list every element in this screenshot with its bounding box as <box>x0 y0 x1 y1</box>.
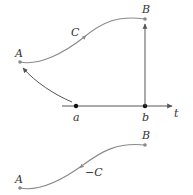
point-A-bottom-label: A <box>14 173 23 186</box>
point-B-label: B <box>141 3 150 16</box>
parametric-curve-diagram: t a b C A B −C A B <box>0 0 193 195</box>
point-A <box>18 60 22 64</box>
curve-minus-C-label: −C <box>85 166 103 179</box>
curve-C <box>20 18 145 63</box>
point-a-label: a <box>73 111 80 124</box>
map-arrow-a-to-A <box>23 68 72 102</box>
top-diagram: t a b C A B <box>14 3 179 124</box>
t-axis-label: t <box>174 107 179 120</box>
point-a <box>74 104 78 108</box>
curve-C-label: C <box>71 26 80 39</box>
point-B-bottom <box>143 143 147 147</box>
point-b-label: b <box>142 111 149 124</box>
curve-minus-C <box>20 144 145 188</box>
point-A-bottom <box>18 186 22 190</box>
point-A-label: A <box>14 47 23 60</box>
point-B-bottom-label: B <box>141 129 150 142</box>
bottom-diagram: −C A B <box>14 129 150 190</box>
point-B <box>143 17 147 21</box>
